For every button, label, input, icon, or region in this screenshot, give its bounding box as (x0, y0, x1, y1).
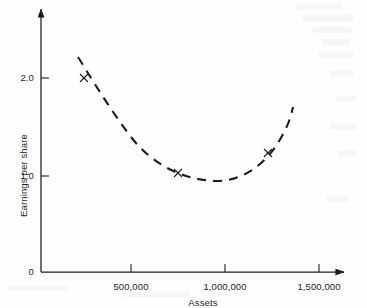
x-axis-title: Assets (183, 297, 223, 308)
figure-container: 2.0 1.0 0 500,000 1,000,000 1,500,000 Ea… (0, 0, 367, 308)
x-tick-label-500000: 500,000 (96, 281, 166, 292)
x-tick-label-1000000: 1,000,000 (188, 281, 262, 292)
plot-area (0, 0, 367, 308)
x-tick-label-1500000: 1,500,000 (282, 281, 356, 292)
data-marker-2 (174, 169, 182, 177)
y-axis-title: Earnings per share (18, 134, 29, 217)
y-tick-label-2: 2.0 (8, 72, 34, 83)
data-curve (78, 57, 293, 181)
y-axis-origin-label: 0 (8, 266, 34, 277)
data-marker-1 (80, 74, 88, 82)
